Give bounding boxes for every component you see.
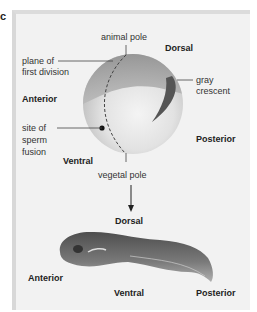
egg-dorsal-label: Dorsal [165,43,193,54]
tadpole-ventral-label: Ventral [114,288,144,299]
vegetal-pole-label: vegetal pole [98,170,147,181]
plane-of-division-label-line1: plane of [22,56,54,67]
tadpole [60,232,213,282]
egg-posterior-label: Posterior [196,134,236,145]
animal-pole-label: animal pole [101,32,147,43]
sperm-fusion-label-line3: fusion [22,147,46,158]
gray-crescent-label-line1: gray [196,75,214,86]
egg-anterior-label: Anterior [22,94,57,105]
egg [83,49,183,154]
egg-ventral-label: Ventral [63,156,93,167]
sperm-fusion-label-line2: sperm [22,135,47,146]
plane-of-division-label-line2: first division [22,67,69,78]
gray-crescent-label-line2: crescent [196,86,230,97]
tadpole-anterior-label: Anterior [28,273,63,284]
tadpole-dorsal-label: Dorsal [115,216,143,227]
sperm-fusion-label-line1: site of [22,123,46,134]
tadpole-posterior-label: Posterior [196,288,236,299]
